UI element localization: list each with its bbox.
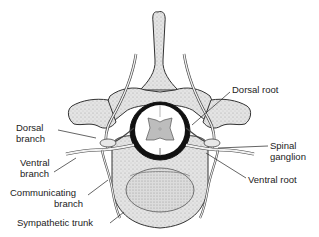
spinal-ganglion-shape — [204, 139, 220, 147]
leader-ventral-branch — [54, 158, 76, 172]
label-communicating-branch-line2: branch — [54, 198, 83, 209]
label-ventral-root: Ventral root — [248, 174, 297, 185]
label-ventral-branch-line1: Ventral — [20, 157, 50, 168]
label-dorsal-branch-line2: branch — [16, 133, 45, 144]
label-communicating-branch-line1: Communicating — [10, 187, 76, 198]
label-ventral-branch-line2: branch — [20, 168, 49, 179]
leader-communicating-branch — [88, 180, 108, 195]
spinous-process — [140, 11, 178, 90]
label-dorsal-branch-line1: Dorsal — [16, 122, 43, 133]
label-sympathetic-trunk: Sympathetic trunk — [17, 217, 93, 228]
leader-dorsal-branch — [58, 130, 96, 138]
vertebra-diagram — [0, 0, 319, 237]
leader-spinal-ganglion — [218, 146, 268, 148]
label-dorsal-root: Dorsal root — [232, 84, 278, 95]
label-spinal-ganglion-line1: Spinal — [270, 140, 296, 151]
label-spinal-ganglion-line2: ganglion — [270, 151, 306, 162]
